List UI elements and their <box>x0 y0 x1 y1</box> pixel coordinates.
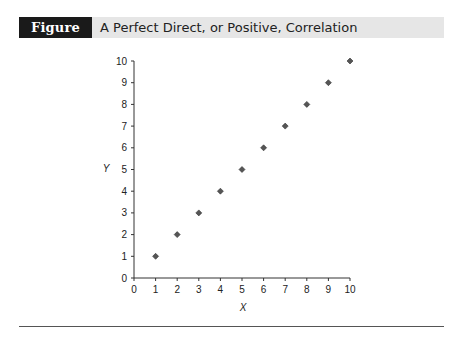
x-tick-label: 9 <box>326 284 332 295</box>
data-points <box>153 58 353 259</box>
x-tick-label: 1 <box>153 284 159 295</box>
y-tick-label: 10 <box>116 56 128 67</box>
data-point-diamond <box>304 101 310 107</box>
data-point-diamond <box>153 253 159 259</box>
x-tick-label: 8 <box>304 284 310 295</box>
data-point-diamond <box>196 210 202 216</box>
x-tick-label: 0 <box>131 284 137 295</box>
data-point-diamond <box>282 123 288 129</box>
y-tick-label: 4 <box>121 186 127 197</box>
y-axis-title: Y <box>103 163 111 174</box>
y-tick-label: 2 <box>121 229 127 240</box>
y-tick-label: 5 <box>121 164 127 175</box>
y-tick-label: 8 <box>121 99 127 110</box>
x-tick-label: 5 <box>239 284 245 295</box>
chart-axes: 012345678910012345678910 <box>116 56 356 296</box>
data-point-diamond <box>347 58 353 64</box>
x-tick-label: 3 <box>196 284 202 295</box>
x-axis-title: X <box>239 302 247 313</box>
y-tick-label: 1 <box>121 251 127 262</box>
x-tick-label: 2 <box>174 284 180 295</box>
data-point-diamond <box>325 80 331 86</box>
y-tick-label: 9 <box>121 77 127 88</box>
data-point-diamond <box>261 145 267 151</box>
data-point-diamond <box>217 188 223 194</box>
data-point-diamond <box>174 232 180 238</box>
x-tick-label: 4 <box>218 284 224 295</box>
x-tick-label: 6 <box>261 284 267 295</box>
scatter-chart: 012345678910012345678910 X Y <box>0 0 452 343</box>
bottom-divider <box>19 326 444 327</box>
y-tick-label: 6 <box>121 142 127 153</box>
y-tick-label: 0 <box>121 273 127 284</box>
x-tick-label: 10 <box>344 284 356 295</box>
y-tick-label: 7 <box>121 121 127 132</box>
y-tick-label: 3 <box>121 207 127 218</box>
data-point-diamond <box>239 167 245 173</box>
x-tick-label: 7 <box>282 284 288 295</box>
